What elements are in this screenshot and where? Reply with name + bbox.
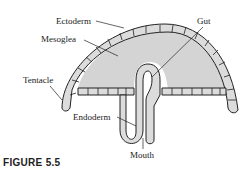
leader-ectoderm — [96, 21, 124, 28]
label-ectoderm: Ectoderm — [56, 16, 91, 26]
label-endoderm: Endoderm — [73, 112, 111, 122]
leader-tentacle — [50, 86, 62, 100]
figure-caption: FIGURE 5.5 — [3, 157, 60, 168]
label-gut: Gut — [197, 16, 211, 26]
label-tentacle: Tentacle — [23, 75, 53, 85]
figure-container: Ectoderm Mesoglea Gut Tentacle Endoderm … — [0, 0, 244, 183]
label-mesoglea: Mesoglea — [41, 34, 76, 44]
label-mouth: Mouth — [130, 150, 155, 160]
cnidarian-diagram: Ectoderm Mesoglea Gut Tentacle Endoderm … — [0, 0, 244, 183]
